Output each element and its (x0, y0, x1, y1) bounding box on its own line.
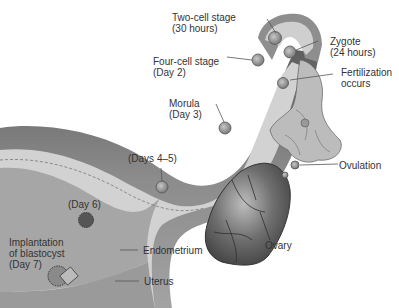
fertilization-cell (278, 78, 289, 89)
two-cell-embryo (269, 32, 282, 45)
label-fertilization: Fertilization occurs (341, 67, 392, 89)
label-implantation: Implantation of blastocyst (Day 7) (9, 237, 65, 270)
label-ovulation: Ovulation (339, 160, 381, 171)
ovulated-oocyte (291, 161, 299, 169)
label-endometrium: Endometrium (143, 245, 202, 256)
morula-cell (219, 122, 231, 134)
label-days-4-5: (Days 4–5) (128, 153, 177, 164)
label-two-cell-stage: Two-cell stage (30 hours) (172, 12, 236, 34)
four-cell-embryo (252, 54, 264, 66)
diagram-canvas: Two-cell stage (30 hours) Zygote (24 hou… (0, 0, 399, 308)
label-day-6: (Day 6) (68, 199, 101, 210)
zygote-cell (284, 46, 296, 58)
label-ovary: Ovary (265, 240, 292, 251)
blastocyst-day4-5 (156, 181, 168, 193)
label-zygote: Zygote (24 hours) (330, 36, 376, 58)
label-four-cell-stage: Four-cell stage (Day 2) (153, 56, 219, 78)
label-uterus: Uterus (144, 276, 173, 287)
label-morula: Morula (Day 3) (169, 98, 202, 120)
blastocyst-day6 (79, 213, 94, 228)
